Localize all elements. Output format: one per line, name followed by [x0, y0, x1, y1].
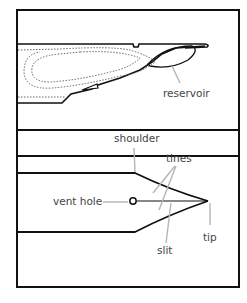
- nib-outline-top: [17, 173, 208, 201]
- tines-leader-2: [159, 166, 176, 210]
- label-vent-hole: vent hole: [53, 195, 102, 207]
- shoulder-leader: [134, 148, 135, 172]
- ink-channel-inner: [32, 52, 140, 82]
- feed-side-view: reservoir: [17, 44, 210, 103]
- feed-tab: [82, 84, 98, 90]
- vent-hole: [130, 198, 136, 204]
- label-tip: tip: [203, 231, 217, 243]
- reservoir-leader: [172, 66, 180, 83]
- ink-channel-outer: [18, 48, 155, 88]
- label-reservoir: reservoir: [163, 87, 210, 99]
- nib-outline-bottom: [17, 201, 208, 232]
- label-slit: slit: [157, 244, 172, 256]
- label-shoulder: shoulder: [114, 132, 160, 144]
- label-tines: tines: [166, 152, 192, 164]
- slit-leader: [166, 203, 171, 243]
- reservoir-shape: [148, 46, 195, 67]
- nib-diagram: reservoir shoulder tines vent hole slit …: [0, 0, 247, 303]
